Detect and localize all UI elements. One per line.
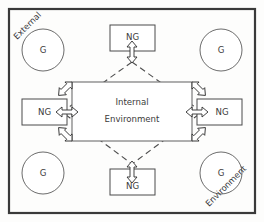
g-node-top-right: G bbox=[200, 29, 242, 71]
ng-node-label: NG bbox=[126, 32, 139, 42]
g-node-top-left: G bbox=[22, 29, 64, 71]
g-node-label: G bbox=[218, 45, 225, 55]
internal-environment-label-line1: Internal bbox=[115, 97, 148, 107]
environment-interaction-diagram: G G G G NG NG NG NG bbox=[0, 0, 264, 222]
g-node-label: G bbox=[40, 45, 47, 55]
g-node-bottom-left: G bbox=[22, 152, 64, 194]
internal-environment-label-line2: Environment bbox=[105, 114, 161, 124]
g-node-label: G bbox=[40, 168, 47, 178]
ng-node-label: NG bbox=[215, 107, 228, 117]
internal-environment-box bbox=[72, 82, 192, 141]
ng-node-label: NG bbox=[38, 107, 51, 117]
g-node-label: G bbox=[218, 168, 225, 178]
diagram-canvas: G G G G NG NG NG NG bbox=[0, 0, 264, 222]
